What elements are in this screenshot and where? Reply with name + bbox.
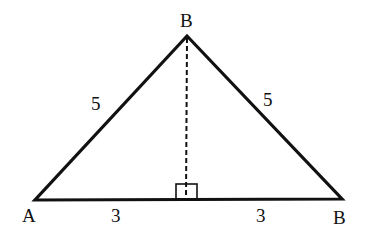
altitude-dashed-line xyxy=(186,38,187,199)
triangle-diagram: B A B 5 5 3 3 xyxy=(0,0,366,242)
vertex-label-right: B xyxy=(333,207,346,228)
side-label-left: 5 xyxy=(91,93,101,114)
vertex-label-left: A xyxy=(22,205,36,226)
base-label-right: 3 xyxy=(256,205,266,226)
side-label-right: 5 xyxy=(263,89,273,110)
triangle xyxy=(35,36,342,200)
base-label-left: 3 xyxy=(111,205,121,226)
vertex-label-apex: B xyxy=(180,10,193,31)
